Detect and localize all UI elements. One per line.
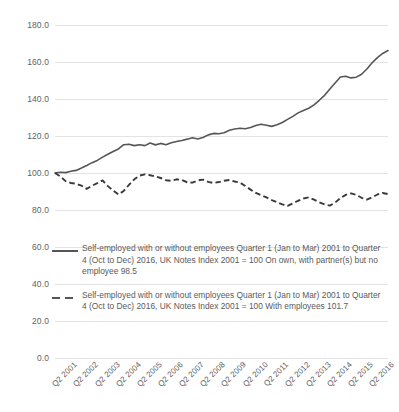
series-line-with-employees [55, 173, 388, 206]
y-axis-tick-label: 60.0 [32, 242, 49, 252]
y-axis-tick-label: 160.0 [27, 57, 49, 67]
legend-swatch-dashed-icon [52, 293, 78, 304]
x-axis-labels: Q2 2001Q2 2002Q2 2003Q2 2004Q2 2005Q2 20… [55, 358, 388, 412]
y-axis-tick-label: 120.0 [27, 131, 49, 141]
legend-swatch-solid-icon [52, 246, 78, 257]
y-axis-tick-label: 80.0 [32, 205, 49, 215]
chart-legend: Self-employed with or without employees … [52, 243, 392, 325]
line-chart: 0.020.040.060.080.0100.0120.0140.0160.01… [0, 0, 399, 412]
y-axis-tick-label: 20.0 [32, 316, 49, 326]
y-axis-tick-label: 0.0 [37, 353, 49, 363]
y-axis-tick-label: 40.0 [32, 279, 49, 289]
legend-label-with-employees: Self-employed with or without employees … [82, 290, 382, 313]
legend-item-on-own: Self-employed with or without employees … [52, 243, 392, 278]
y-axis-tick-label: 100.0 [27, 168, 49, 178]
legend-item-with-employees: Self-employed with or without employees … [52, 290, 392, 313]
series-line-on-own [55, 51, 388, 173]
y-axis-tick-label: 140.0 [27, 94, 49, 104]
y-axis-tick-label: 180.0 [27, 20, 49, 30]
legend-label-on-own: Self-employed with or without employees … [82, 243, 382, 278]
